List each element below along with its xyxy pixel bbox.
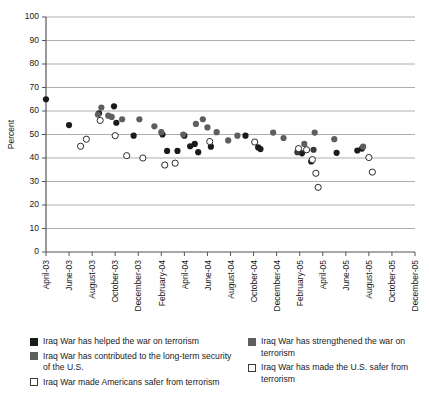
y-tick-label: 80	[30, 58, 40, 68]
y-tick-label: 40	[30, 152, 40, 162]
data-point	[193, 121, 199, 127]
x-tick-label: April-05	[318, 260, 328, 290]
data-point	[180, 131, 186, 137]
data-point	[162, 162, 168, 168]
legend-item: Iraq War made Americans safer from terro…	[30, 377, 238, 389]
y-tick-label: 0	[34, 246, 39, 256]
data-point	[77, 143, 83, 149]
data-point	[136, 116, 142, 122]
data-point	[257, 146, 263, 152]
x-tick-label: June-03	[64, 260, 74, 291]
data-point	[200, 116, 206, 122]
data-point	[95, 111, 101, 117]
data-point	[97, 117, 103, 123]
legend-item: Iraq War has helped the war on terrorism	[30, 336, 238, 348]
data-point	[304, 147, 310, 153]
y-tick-label: 50	[30, 129, 40, 139]
plot-area: 0102030405060708090100April-03June-03Aug…	[0, 0, 429, 336]
data-point	[151, 123, 157, 129]
data-point	[252, 139, 258, 145]
data-point	[192, 141, 198, 147]
data-point	[225, 137, 231, 143]
data-point	[113, 120, 119, 126]
data-point	[111, 103, 117, 109]
x-tick-label: August-03	[87, 260, 97, 299]
data-point	[109, 114, 115, 120]
data-point	[131, 133, 137, 139]
data-point	[140, 155, 146, 161]
y-tick-label: 90	[30, 35, 40, 45]
legend-item: Iraq War has contributed to the long-ter…	[30, 351, 238, 374]
data-point	[112, 133, 118, 139]
x-tick-label: October-04	[249, 260, 259, 303]
y-tick-label: 30	[30, 176, 40, 186]
x-tick-label: April-04	[180, 260, 190, 290]
x-tick-label: June-05	[341, 260, 351, 291]
legend-item-label: Iraq War has made the U.S. safer from te…	[261, 362, 426, 385]
data-point	[309, 157, 315, 163]
data-point	[83, 136, 89, 142]
data-point	[310, 147, 316, 153]
legend-swatch-open-icon	[30, 378, 38, 386]
data-point	[43, 96, 49, 102]
y-tick-label: 20	[30, 199, 40, 209]
legend-item-label: Iraq War has contributed to the long-ter…	[43, 351, 238, 374]
x-tick-label: April-03	[41, 260, 51, 290]
data-point	[172, 160, 178, 166]
y-axis-title: Percent	[6, 119, 16, 149]
data-point	[312, 130, 318, 136]
y-tick-label: 70	[30, 82, 40, 92]
legend-item-label: Iraq War made Americans safer from terro…	[43, 377, 219, 389]
x-tick-label: February-04	[157, 260, 167, 307]
y-tick-label: 100	[25, 11, 39, 21]
legend-column-right: Iraq War has strengthened the war on ter…	[248, 336, 426, 388]
data-point	[301, 141, 307, 147]
legend-item: Iraq War has strengthened the war on ter…	[248, 336, 426, 359]
data-point	[207, 138, 213, 144]
legend-item-label: Iraq War has helped the war on terrorism	[43, 336, 199, 348]
data-point	[369, 169, 375, 175]
data-point	[270, 130, 276, 136]
data-point	[66, 122, 72, 128]
x-tick-label: December-04	[272, 260, 282, 312]
legend-item: Iraq War has made the U.S. safer from te…	[248, 362, 426, 385]
data-point	[214, 129, 220, 135]
y-tick-label: 60	[30, 105, 40, 115]
data-point	[174, 148, 180, 154]
legend-swatch-gray-icon	[248, 338, 256, 346]
x-tick-label: December-05	[410, 260, 420, 312]
legend-column-left: Iraq War has helped the war on terrorism…	[30, 336, 238, 388]
data-point	[366, 154, 372, 160]
data-point	[119, 116, 125, 122]
data-point	[313, 170, 319, 176]
chart-legend: Iraq War has helped the war on terrorism…	[30, 336, 426, 388]
legend-swatch-black-icon	[30, 338, 38, 346]
x-tick-label: August-04	[226, 260, 236, 299]
data-point	[98, 104, 104, 110]
x-tick-label: August-05	[364, 260, 374, 299]
legend-swatch-gray-icon	[30, 352, 38, 360]
x-tick-label: December-03	[133, 260, 143, 312]
data-point	[360, 144, 366, 150]
legend-item-label: Iraq War has strengthened the war on ter…	[261, 336, 426, 359]
scatter-chart-figure: 0102030405060708090100April-03June-03Aug…	[0, 0, 429, 407]
data-point	[204, 124, 210, 130]
data-point	[124, 153, 130, 159]
data-point	[331, 136, 337, 142]
series-3	[77, 117, 375, 190]
data-point	[242, 133, 248, 139]
x-tick-label: October-03	[110, 260, 120, 303]
data-point	[333, 150, 339, 156]
data-point	[158, 129, 164, 135]
data-point	[315, 184, 321, 190]
y-tick-label: 10	[30, 223, 40, 233]
data-point	[164, 148, 170, 154]
data-point	[280, 135, 286, 141]
data-point	[295, 146, 301, 152]
data-point	[234, 133, 240, 139]
data-point	[195, 149, 201, 155]
legend-swatch-open-icon	[248, 364, 256, 372]
x-tick-label: June-04	[203, 260, 213, 291]
x-tick-label: October-05	[387, 260, 397, 303]
x-tick-label: February-05	[295, 260, 305, 307]
